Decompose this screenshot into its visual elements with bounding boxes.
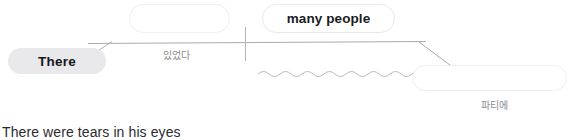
- diagram-node-blank[interactable]: [129, 4, 230, 33]
- wavy-underline: [258, 72, 434, 77]
- annotation-label-patie: 파티에: [481, 97, 509, 112]
- diagram-node-many-people[interactable]: many people: [262, 4, 395, 33]
- annotation-label-itseotda: 있었다: [163, 47, 191, 62]
- diagram-node-party[interactable]: [412, 65, 567, 91]
- baseline-horizontal: [88, 42, 426, 44]
- sentence-text: There were tears in his eyes: [2, 124, 181, 140]
- diagram-node-there[interactable]: There: [8, 48, 106, 74]
- sentence-diagram-canvas: many people There 있었다 파티에: [0, 0, 586, 140]
